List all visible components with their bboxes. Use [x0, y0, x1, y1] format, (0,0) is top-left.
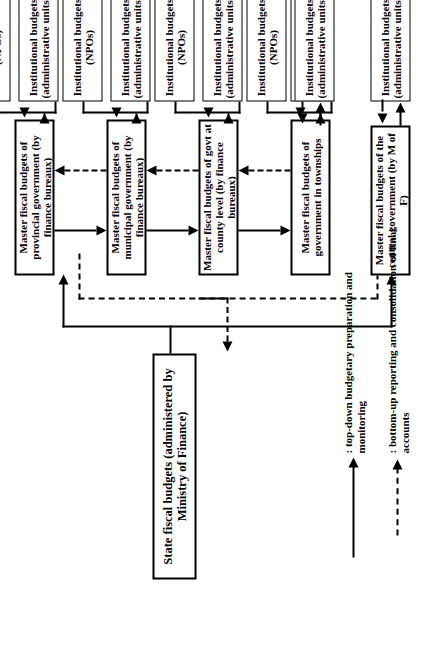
arrowhead-central-to-admin — [395, 102, 405, 112]
arrowhead-institutional-to-master-level-0 — [19, 107, 29, 117]
legend-solid-line — [352, 465, 354, 557]
edge-dashed-level-1-to-level-0 — [64, 169, 106, 171]
bracket-stub-admin-level-2 — [238, 101, 240, 113]
node-institutional-admin-level-3-label: Institutional budgets (administrative un… — [302, 0, 327, 98]
arrowhead-level-0-to-level-1 — [96, 225, 106, 235]
arrowhead-level-1-to-level-2 — [188, 225, 198, 235]
node-institutional-admin-level-2-label: Institutional budgets (administrative un… — [210, 0, 235, 98]
arrowhead-institutional-to-master-level-1 — [111, 107, 121, 117]
trunk-dashed-upper — [78, 253, 80, 299]
arrowhead-dashed-into-state — [222, 341, 232, 351]
arrowhead-dashed-level-3-to-level-2 — [238, 165, 248, 175]
arrowhead-solid-to-provincial — [58, 274, 68, 284]
node-master-county: Master fiscal budgets of govt at county … — [198, 119, 238, 275]
node-institutional-admin-level-2: Institutional budgets (administrative un… — [202, 0, 242, 101]
edge-dashed-admin-to-central — [381, 99, 383, 111]
trunk-dashed-to-state — [226, 297, 228, 341]
trunk-dashed-stub — [198, 297, 228, 299]
trunk-solid-from-state — [169, 325, 171, 353]
node-institutional-admin-level-0: Institutional budgets (administrative un… — [18, 0, 58, 101]
arrowhead-dashed-level-1-to-level-0 — [54, 165, 64, 175]
node-institutional-admin-level-3: Institutional budgets (administrative un… — [294, 0, 334, 101]
legend-dashed-arrowhead — [392, 459, 402, 469]
node-institutional-npo-level-0-label: Institutional budgets (NPOs) — [0, 0, 2, 98]
bracket-stub-admin-level-0 — [54, 101, 56, 113]
node-institutional-admin-central-label: Institutional budgets (administrative un… — [378, 0, 403, 98]
node-state-fiscal-budgets: State fiscal budgets (administered by Mi… — [152, 353, 196, 579]
arrowhead-institutional-to-master-level-3 — [295, 107, 305, 117]
arrowhead-level-2-to-level-3 — [280, 225, 290, 235]
node-master-municipal: Master fiscal budgets of municipal gover… — [106, 119, 146, 275]
edge-solid-level-1-to-level-2 — [146, 229, 188, 231]
bracket-stub-npo-level-2 — [174, 101, 176, 113]
edge-solid-central-to-admin — [399, 111, 401, 125]
node-institutional-npo-level-2: Institutional budgets (NPOs) — [154, 0, 194, 101]
bracket-stub-admin-level-3 — [330, 101, 332, 113]
bracket-stub-npo-level-1 — [82, 101, 84, 113]
trunk-solid-to-levels — [62, 283, 64, 327]
arrowhead-institutional-to-master-level-2 — [203, 107, 213, 117]
bracket-stub-npo-level-3 — [266, 101, 268, 113]
node-master-provincial-label: Master fiscal budgets of provincial gove… — [16, 123, 53, 271]
node-master-provincial: Master fiscal budgets of provincial gove… — [14, 119, 54, 275]
node-master-county-label: Master fiscal budgets of govt at county … — [200, 123, 237, 271]
edge-solid-level-2-to-level-3 — [238, 229, 280, 231]
node-institutional-npo-level-2-label: Institutional budgets (NPOs) — [162, 0, 187, 98]
node-state-label: State fiscal budgets (administered by Mi… — [160, 357, 188, 575]
arrowhead-master-to-institutional-level-1 — [131, 113, 141, 123]
arrowhead-dashed-level-2-to-level-1 — [146, 165, 156, 175]
budget-hierarchy-diagram: State fiscal budgets (administered by Mi… — [0, 0, 441, 667]
legend-dashed-label: : bottom-up reporting and consolidation … — [385, 213, 410, 453]
node-institutional-admin-level-1-label: Institutional budgets (administrative un… — [118, 0, 143, 98]
bracket-stub-admin-level-1 — [146, 101, 148, 113]
legend-solid-arrowhead — [348, 457, 358, 467]
arrowhead-admin-to-central — [377, 113, 387, 123]
node-institutional-npo-level-0: Institutional budgets (NPOs) — [0, 0, 10, 101]
node-institutional-npo-level-1-label: Institutional budgets (NPOs) — [70, 0, 95, 98]
legend-solid-label: : top-down budgetary preparation and mon… — [341, 243, 366, 453]
arrowhead-master-to-institutional-level-0 — [39, 113, 49, 123]
node-institutional-admin-central: Institutional budgets (administrative un… — [370, 0, 410, 101]
arrowhead-master-to-institutional-level-3 — [315, 113, 325, 123]
arrowhead-central-to-npo — [315, 102, 325, 112]
node-master-township-label: Master fiscal budgets of government in t… — [298, 123, 323, 271]
edge-solid-level-0-to-level-1 — [54, 229, 96, 231]
node-institutional-npo-level-1: Institutional budgets (NPOs) — [62, 0, 102, 101]
node-institutional-npo-level-3-label: Institutional budgets (NPOs) — [254, 0, 279, 98]
edge-dashed-level-3-to-level-2 — [248, 169, 290, 171]
node-master-municipal-label: Master fiscal budgets of municipal gover… — [108, 123, 145, 271]
node-institutional-admin-level-1: Institutional budgets (administrative un… — [110, 0, 150, 101]
node-master-township: Master fiscal budgets of government in t… — [290, 119, 330, 275]
node-institutional-npo-level-3: Institutional budgets (NPOs) — [246, 0, 286, 101]
legend-dashed-line — [396, 467, 398, 535]
edge-dashed-level-2-to-level-1 — [156, 169, 198, 171]
arrowhead-master-to-institutional-level-2 — [223, 113, 233, 123]
node-institutional-admin-level-0-label: Institutional budgets (administrative un… — [26, 0, 51, 98]
